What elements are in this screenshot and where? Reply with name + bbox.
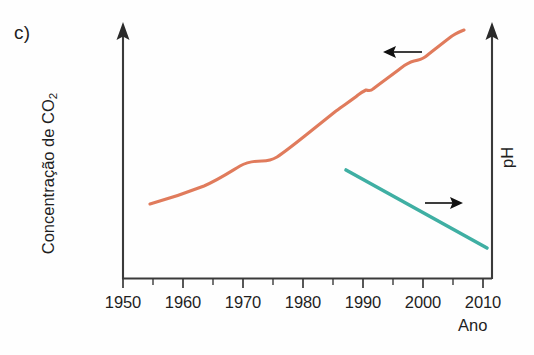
xtick-label-2000: 2000 bbox=[397, 293, 449, 312]
x-axis bbox=[122, 279, 492, 289]
xtick-label-1990: 1990 bbox=[337, 293, 389, 312]
xtick-label-2010: 2010 bbox=[457, 293, 509, 312]
y-axis-left-title: Concentração de CO2 bbox=[39, 64, 58, 284]
xtick-label-1970: 1970 bbox=[217, 293, 269, 312]
xtick-label-1960: 1960 bbox=[157, 293, 209, 312]
series-ph-line bbox=[346, 170, 487, 248]
x-axis-title: Ano bbox=[458, 316, 487, 335]
figure-panel-c: c) bbox=[0, 0, 534, 355]
series-co2-line bbox=[150, 30, 464, 204]
arrow-pointing-to-left-axis bbox=[383, 46, 422, 58]
y-axis-left-title-text: Concentração de CO bbox=[39, 99, 57, 254]
y-axis-left-title-subscript: 2 bbox=[47, 93, 59, 99]
y-axis-left bbox=[117, 22, 130, 279]
arrow-pointing-to-right-axis bbox=[425, 197, 463, 209]
xtick-label-1950: 1950 bbox=[97, 293, 149, 312]
y-axis-right-title: pH bbox=[498, 113, 517, 203]
xtick-label-1980: 1980 bbox=[277, 293, 329, 312]
